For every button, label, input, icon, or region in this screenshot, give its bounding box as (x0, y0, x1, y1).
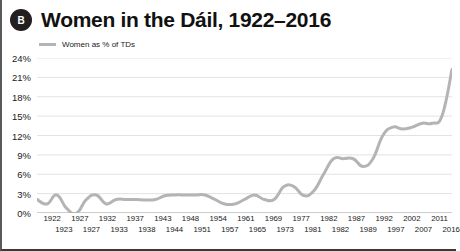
y-axis-labels: 24%21%18%15%12%9%6%3%0% (2, 52, 34, 213)
x-axis-tick-label: 1997 (387, 225, 404, 234)
x-axis-tick-label: 1951 (193, 225, 210, 234)
data-series-group (37, 70, 452, 213)
chart-title: Women in the Dáil, 1922–2016 (41, 8, 331, 32)
y-axis-tick-label: 9% (17, 149, 31, 160)
series-line-women-pct (37, 70, 452, 213)
panel-badge: B (10, 9, 32, 31)
x-axis-tick-label: 1943 (154, 214, 171, 223)
y-axis-tick-label: 12% (12, 130, 31, 141)
x-axis-tick-label: 1989 (359, 225, 376, 234)
y-axis-tick-label: 3% (17, 188, 31, 199)
x-axis-labels: 1922192719321937194319481954196119691977… (37, 214, 455, 248)
x-axis-tick-label: 1977 (293, 214, 310, 223)
x-axis-tick-label: 1922 (44, 214, 61, 223)
x-axis-tick-label: 1992 (376, 214, 393, 223)
x-axis-tick-label: 1969 (265, 214, 282, 223)
x-axis-tick-label: 2011 (431, 214, 448, 223)
y-axis-tick-label: 15% (12, 111, 31, 122)
x-axis-tick-label: 1927 (71, 214, 88, 223)
line-chart-svg (37, 58, 452, 213)
x-axis-tick-label: 2007 (415, 225, 432, 234)
x-axis-tick-label: 1965 (249, 225, 266, 234)
x-axis-tick-label: 1973 (276, 225, 293, 234)
x-axis-tick-label: 2002 (403, 214, 420, 223)
x-axis-row-bottom: 1923192719331938194419511957196519731981… (37, 225, 455, 238)
x-axis-tick-label: 2016 (442, 225, 459, 234)
x-axis-tick-label: 1987 (348, 214, 365, 223)
x-axis-tick-label: 1938 (138, 225, 155, 234)
y-axis-tick-label: 18% (12, 91, 31, 102)
y-axis-tick-label: 6% (17, 169, 31, 180)
x-axis-tick-label: 1923 (55, 225, 72, 234)
x-axis-tick-label: 1981 (304, 225, 321, 234)
y-axis-tick-label: 21% (12, 72, 31, 83)
gridlines (37, 58, 452, 213)
legend-line-swatch-icon (39, 43, 56, 46)
x-axis-tick-label: 1944 (166, 225, 183, 234)
x-axis-tick-label: 1957 (221, 225, 238, 234)
x-axis-tick-label: 1927 (83, 225, 100, 234)
x-axis-tick-label: 1961 (237, 214, 254, 223)
x-axis-tick-label: 1982 (332, 225, 349, 234)
x-axis-tick-label: 1937 (127, 214, 144, 223)
x-axis-tick-label: 1933 (110, 225, 127, 234)
legend-label: Women as % of TDs (62, 40, 135, 49)
plot-area (37, 58, 452, 213)
y-axis-tick-label: 24% (12, 53, 31, 64)
x-axis-tick-label: 1954 (210, 214, 227, 223)
x-axis-tick-label: 1932 (99, 214, 116, 223)
chart-legend: Women as % of TDs (39, 40, 135, 49)
x-axis-tick-label: 1982 (320, 214, 337, 223)
x-axis-tick-label: 1948 (182, 214, 199, 223)
y-axis-tick-label: 0% (17, 208, 31, 219)
